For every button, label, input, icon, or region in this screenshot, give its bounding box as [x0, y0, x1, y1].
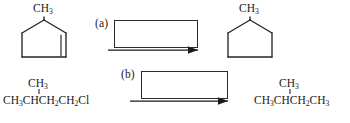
reagent-box-b[interactable] — [141, 71, 228, 99]
product-b-branch-label: CH3 — [279, 77, 299, 91]
reagent-box-a[interactable] — [114, 20, 198, 48]
product-a-methyl-subscript: 3 — [255, 7, 259, 16]
product-b-atom-0: CH — [254, 94, 270, 106]
reaction-a-label: (a) — [95, 17, 108, 29]
reaction-b-label: (b) — [121, 68, 135, 80]
reactant-b-branch-text: CH — [28, 77, 44, 89]
reactant-b-atom-4: Cl — [78, 94, 89, 106]
product-a-structure — [228, 17, 272, 57]
reactant-b-atom-1: CH — [23, 94, 39, 106]
reactant-b-atom-3: CH — [59, 94, 75, 106]
product-a-methyl-label: CH3 — [239, 2, 259, 16]
reactant-a-structure — [22, 17, 66, 57]
product-b-atom-2: CH — [290, 94, 306, 106]
reactant-b-atom-0: CH — [3, 94, 19, 106]
reactant-b-branch-subscript: 3 — [44, 82, 48, 91]
product-b-branch-subscript: 3 — [295, 82, 299, 91]
product-b-atom-3: CH — [310, 94, 326, 106]
product-b-atom-3-sub: 3 — [326, 99, 330, 108]
product-b-branch-text: CH — [279, 77, 295, 89]
reactant-b-branch-label: CH3 — [28, 77, 48, 91]
reactant-b-atom-2: CH — [39, 94, 55, 106]
product-b-atom-1: CH — [274, 94, 290, 106]
reaction-scheme-sheet: CH3 — [0, 0, 350, 123]
product-b-formula: CH3CHCH2CH3 — [254, 94, 329, 108]
product-a-methyl-text: CH — [239, 2, 255, 14]
reactant-b-formula: CH3CHCH2CH2Cl — [3, 94, 89, 108]
